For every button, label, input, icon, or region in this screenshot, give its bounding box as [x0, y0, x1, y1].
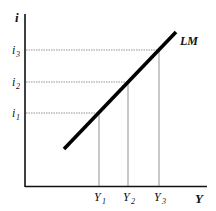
tick-label: Y: [94, 190, 102, 204]
tick-subscript: 3: [161, 197, 166, 206]
tick-subscript: 1: [102, 197, 106, 206]
y-tick-i1: i 1: [12, 106, 20, 122]
tick-label: Y: [154, 190, 162, 204]
tick-label: i: [12, 106, 15, 120]
y-axis-label: i: [15, 10, 19, 25]
diagram-svg: i Y LM i 3 i 2 i 1 Y 1 Y 2 Y 3: [0, 0, 216, 211]
x-tick-y1: Y 1: [94, 190, 106, 206]
y-tick-i3: i 3: [12, 43, 20, 59]
tick-subscript: 2: [16, 82, 20, 91]
tick-subscript: 1: [16, 113, 20, 122]
tick-label: Y: [123, 190, 131, 204]
lm-curve-label: LM: [179, 34, 198, 48]
x-axis-label: Y: [195, 191, 204, 206]
x-tick-y3: Y 3: [154, 190, 166, 206]
tick-subscript: 2: [131, 197, 135, 206]
x-tick-y2: Y 2: [123, 190, 135, 206]
tick-label: i: [12, 75, 15, 89]
lm-curve-diagram: i Y LM i 3 i 2 i 1 Y 1 Y 2 Y 3: [0, 0, 216, 211]
tick-label: i: [12, 43, 15, 57]
tick-subscript: 3: [15, 50, 20, 59]
y-tick-i2: i 2: [12, 75, 20, 91]
